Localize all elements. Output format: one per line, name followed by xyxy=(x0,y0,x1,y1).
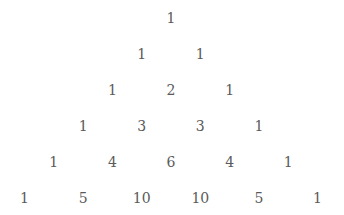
triangle-cell: 10 xyxy=(191,191,209,205)
triangle-cell: 1 xyxy=(108,83,117,97)
triangle-cell: 1 xyxy=(20,191,29,205)
triangle-cell: 1 xyxy=(49,155,58,169)
triangle-cell: 1 xyxy=(313,191,322,205)
triangle-cell: 1 xyxy=(254,119,263,133)
triangle-cell: 4 xyxy=(108,155,117,169)
triangle-cell: 1 xyxy=(196,47,205,61)
triangle-cell: 3 xyxy=(196,119,205,133)
pascals-triangle: 11112113311464115101051 xyxy=(0,0,344,215)
triangle-cell: 5 xyxy=(254,191,263,205)
triangle-cell: 2 xyxy=(167,83,176,97)
triangle-cell: 1 xyxy=(284,155,293,169)
triangle-cell: 6 xyxy=(167,155,176,169)
triangle-cell: 10 xyxy=(133,191,151,205)
triangle-cell: 1 xyxy=(79,119,88,133)
triangle-cell: 1 xyxy=(225,83,234,97)
triangle-cell: 1 xyxy=(167,11,176,25)
triangle-cell: 5 xyxy=(79,191,88,205)
triangle-cell: 1 xyxy=(137,47,146,61)
triangle-cell: 3 xyxy=(137,119,146,133)
triangle-cell: 4 xyxy=(225,155,234,169)
